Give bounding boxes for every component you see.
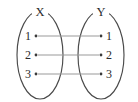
element-label-y-1: 1: [106, 29, 112, 43]
set-label-x: X: [35, 5, 44, 19]
element-dot-y-1: [100, 35, 103, 38]
element-dot-y-3: [100, 73, 103, 76]
element-label-x-2: 2: [25, 48, 31, 62]
element-dot-x-2: [35, 54, 38, 57]
set-mapping-diagram: X Y 1 2 3 1 2 3: [0, 0, 138, 102]
element-dot-x-1: [35, 35, 38, 38]
set-label-y: Y: [96, 5, 105, 19]
element-dot-x-3: [35, 73, 38, 76]
element-label-x-3: 3: [25, 67, 31, 81]
element-dot-y-2: [100, 54, 103, 57]
element-label-y-2: 2: [106, 48, 112, 62]
element-label-y-3: 3: [106, 67, 112, 81]
element-label-x-1: 1: [25, 29, 31, 43]
mapping-svg: X Y 1 2 3 1 2 3: [0, 0, 138, 102]
